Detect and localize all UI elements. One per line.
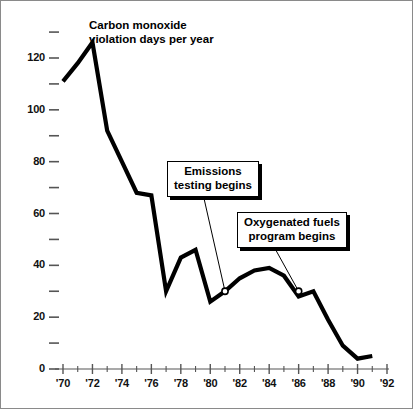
oxygenated-fuels-marker [296,288,302,294]
x-axis-label-86: '86 [283,377,315,389]
chart-title-line-2: violation days per year [89,33,214,47]
y-axis-label-120: 120 [7,51,45,63]
annotation-emissions-line-2: testing begins [174,179,252,193]
x-axis-label-74: '74 [106,377,138,389]
x-axis-label-90: '90 [342,377,374,389]
x-axis-label-88: '88 [312,377,344,389]
data-point-markers [222,288,302,294]
y-axis-label-60: 60 [7,207,45,219]
x-axis-label-72: '72 [76,377,108,389]
emissions-testing-marker [222,288,228,294]
y-axis-label-0: 0 [7,362,45,374]
annotation-oxyfuel-line-2: program begins [244,230,340,244]
chart-frame: Carbon monoxide violation days per year … [0,0,413,409]
chart-title: Carbon monoxide violation days per year [89,19,214,46]
x-axis-label-78: '78 [165,377,197,389]
y-axis-label-20: 20 [7,310,45,322]
x-axis-label-82: '82 [224,377,256,389]
annotation-emissions-line-1: Emissions [174,165,252,179]
line-chart-plot [1,1,413,409]
x-axis-label-80: '80 [194,377,226,389]
x-axis-label-92: '92 [371,377,403,389]
x-axis-label-76: '76 [135,377,167,389]
chart-title-line-1: Carbon monoxide [89,19,214,33]
series-line-co-violation-days [63,42,372,358]
y-axis-label-80: 80 [7,155,45,167]
series-layer [63,42,372,358]
x-axis-label-84: '84 [253,377,285,389]
y-axis-label-40: 40 [7,258,45,270]
annotation-oxygenated-fuels: Oxygenated fuels program begins [237,212,347,248]
x-axis-label-70: '70 [47,377,79,389]
y-axis-label-100: 100 [7,103,45,115]
leader-line-oxyfuel [273,245,299,291]
annotation-oxyfuel-line-1: Oxygenated fuels [244,216,340,230]
leader-line-emissions [203,194,225,291]
annotation-emissions-testing: Emissions testing begins [167,161,259,197]
